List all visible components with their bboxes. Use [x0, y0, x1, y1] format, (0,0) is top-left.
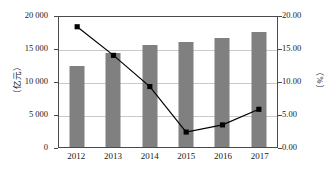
right-tick-label: 15.00: [282, 44, 330, 53]
left-tick-label: 0: [0, 143, 48, 152]
left-tick-label: 10 000: [0, 77, 48, 86]
left-tick-label: 5 000: [0, 110, 48, 119]
line-marker: [184, 129, 189, 134]
line-series: [59, 17, 277, 147]
right-tick-mark: [278, 115, 282, 116]
plot-area: [58, 16, 278, 148]
right-tick-mark: [278, 82, 282, 83]
right-tick-mark: [278, 16, 282, 17]
x-tick-label: 2013: [95, 150, 132, 164]
x-tick-label: 2012: [58, 150, 95, 164]
line-marker: [256, 107, 261, 112]
right-tick-label: 5.00: [282, 110, 330, 119]
x-tick-label: 2014: [131, 150, 168, 164]
line-path: [77, 27, 259, 132]
right-tick-label: 10.00: [282, 77, 330, 86]
left-tick-mark: [54, 148, 58, 149]
right-tick-label: 0.00: [282, 143, 330, 152]
line-marker: [220, 122, 225, 127]
line-marker: [111, 53, 116, 58]
line-marker: [147, 84, 152, 89]
left-tick-label: 20 000: [0, 11, 48, 20]
x-tick-label: 2016: [205, 150, 242, 164]
left-tick-label: 15 000: [0, 44, 48, 53]
right-tick-label: 20.00: [282, 11, 330, 20]
x-tick-label: 2017: [241, 150, 278, 164]
right-tick-mark: [278, 148, 282, 149]
x-tick-label: 2015: [168, 150, 205, 164]
line-marker: [75, 24, 80, 29]
x-axis-labels: 201220132014201520162017: [58, 150, 278, 164]
right-tick-mark: [278, 49, 282, 50]
chart-container: （亿元） （%） 05 00010 00015 00020 000 0.005.…: [0, 0, 330, 174]
